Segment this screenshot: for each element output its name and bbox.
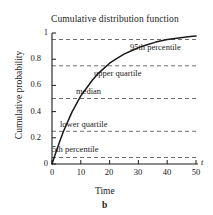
x-tick-label-0: 0 xyxy=(41,167,63,177)
y-tick-label-0-4: 0.4 xyxy=(19,106,41,116)
chart-title: Cumulative distribution function xyxy=(51,14,179,24)
figure-panel-caption: b xyxy=(102,200,107,210)
annotation-lower-quartile: lower quartile xyxy=(60,119,107,129)
x-tick-label-30: 30 xyxy=(127,167,149,177)
x-tick-label-40: 40 xyxy=(156,167,178,177)
x-tick-marks xyxy=(52,160,196,164)
x-tick-label-20: 20 xyxy=(98,167,120,177)
annotation-95th-percentile: 95th percentile xyxy=(130,42,181,52)
annotation-upper-quartile: upper quartile xyxy=(94,68,141,78)
x-axis-symbol: t xyxy=(201,157,203,167)
annotation-5th-percentile: 5th percentile xyxy=(52,144,99,154)
x-axis-label: Time xyxy=(95,186,115,196)
x-tick-label-10: 10 xyxy=(70,167,92,177)
x-tick-label-50: 50 xyxy=(185,167,207,177)
y-tick-label-0-2: 0.2 xyxy=(19,132,41,142)
gridline-group xyxy=(52,40,196,158)
y-tick-label-0-6: 0.6 xyxy=(19,79,41,89)
y-tick-label-1: 1 xyxy=(26,27,48,37)
cdf-figure: Cumulative distribution function Cumulat… xyxy=(0,0,213,215)
annotation-median: median xyxy=(76,86,101,96)
y-tick-label-0-8: 0.8 xyxy=(19,53,41,63)
